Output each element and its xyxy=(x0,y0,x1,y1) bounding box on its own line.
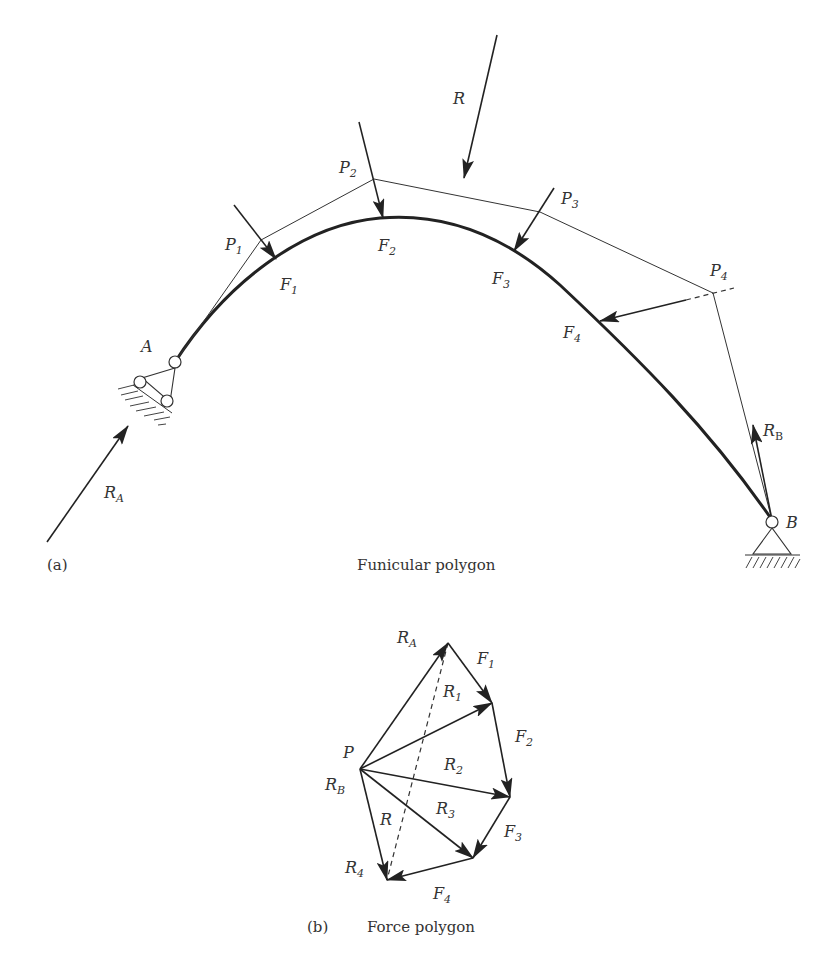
label-f3: F3 xyxy=(491,269,510,291)
label-f2: F2 xyxy=(377,236,396,258)
label-f4: F4 xyxy=(562,323,581,345)
caption-funicular-polygon: Funicular polygon xyxy=(357,556,496,574)
resultant-arrow-r xyxy=(464,35,497,178)
vector-f4 xyxy=(387,858,473,880)
caption-tag-a: (a) xyxy=(47,556,68,574)
label-fp-ra: RA xyxy=(396,628,417,650)
caption-force-polygon: Force polygon xyxy=(367,918,475,936)
load-arrow-p4-dashed-extension xyxy=(686,288,734,300)
ray-r2 xyxy=(360,769,510,797)
label-p3: P3 xyxy=(560,189,579,211)
label-p4: P4 xyxy=(709,261,728,283)
label-r: R xyxy=(452,89,465,108)
label-fp-f1: F1 xyxy=(476,649,495,671)
label-fp-r2: R2 xyxy=(443,755,463,777)
load-arrow-p2 xyxy=(359,122,383,218)
label-fp-r3: R3 xyxy=(435,799,455,821)
label-fp-r1: R1 xyxy=(442,682,462,704)
ray-r1 xyxy=(360,703,492,769)
vector-f2 xyxy=(492,703,510,797)
label-fp-p: P xyxy=(342,743,354,762)
load-arrow-p4 xyxy=(600,300,686,321)
load-arrow-p3 xyxy=(514,188,554,251)
label-fp-r: R xyxy=(379,810,392,829)
label-p2: P2 xyxy=(338,158,357,180)
vector-ra xyxy=(360,643,448,769)
arch-curve xyxy=(175,217,772,520)
force-polygon-resultant-dashed xyxy=(387,643,448,880)
label-fp-f2: F2 xyxy=(514,727,533,749)
label-p1: P1 xyxy=(224,235,243,257)
label-f1: F1 xyxy=(279,275,298,297)
support-a-roller xyxy=(118,356,181,425)
label-fp-f3: F3 xyxy=(503,822,522,844)
funicular-force-polygon-figure: R P1 P2 P3 P4 F1 F2 F3 F4 A B RA RB (a) … xyxy=(0,0,833,976)
force-polygon-diagram: RA F1 R1 F2 P RB R2 R R3 F3 R4 F4 (b) Fo… xyxy=(307,628,533,936)
funicular-diagram: R P1 P2 P3 P4 F1 F2 F3 F4 A B RA RB (a) … xyxy=(47,35,800,574)
label-support-a: A xyxy=(139,337,153,356)
label-fp-rb: RB xyxy=(324,775,345,797)
label-fp-r4: R4 xyxy=(344,858,364,880)
label-rb: RB xyxy=(762,421,783,443)
label-fp-f4: F4 xyxy=(432,884,451,906)
label-ra: RA xyxy=(103,483,124,505)
label-support-b: B xyxy=(785,513,798,532)
ray-r3 xyxy=(360,769,473,858)
caption-tag-b: (b) xyxy=(307,918,328,936)
